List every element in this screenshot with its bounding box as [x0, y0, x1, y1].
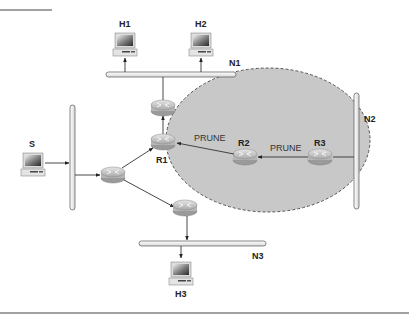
- network-n1-label: N1: [229, 58, 241, 68]
- router-icon: [308, 149, 332, 165]
- host-h1: H1: [113, 19, 137, 72]
- network-n2-label: N2: [364, 114, 376, 124]
- prune-label-r3-r2: PRUNE: [270, 143, 302, 153]
- host-h2: H2: [189, 19, 213, 72]
- router-n1-icon: [151, 100, 175, 116]
- source-network-bus: [70, 105, 75, 210]
- host-h2-label: H2: [195, 19, 207, 29]
- network-n3-label: N3: [252, 251, 264, 261]
- host-h3-label: H3: [175, 289, 187, 299]
- multicast-prune-diagram: N1 H1 H2 R1 S N3: [0, 0, 409, 317]
- computer-icon: [169, 262, 193, 285]
- router-r3-label: R3: [314, 138, 326, 148]
- router-icon: [233, 149, 257, 165]
- computer-icon: [21, 153, 45, 176]
- router-r2-label: R2: [238, 138, 250, 148]
- router-left-icon: [101, 167, 125, 183]
- network-n1: N1: [106, 58, 241, 77]
- computer-icon: [189, 33, 213, 56]
- prune-label-r2-r1: PRUNE: [194, 133, 226, 143]
- host-h1-label: H1: [119, 19, 131, 29]
- source-s-label: S: [29, 139, 35, 149]
- host-h3: H3: [169, 246, 193, 299]
- computer-icon: [113, 33, 137, 56]
- router-icon: [151, 134, 175, 150]
- network-n3: N3: [139, 241, 266, 261]
- source-s: S: [21, 139, 69, 176]
- router-n3-icon: [173, 200, 197, 216]
- router-r1-label: R1: [156, 155, 168, 165]
